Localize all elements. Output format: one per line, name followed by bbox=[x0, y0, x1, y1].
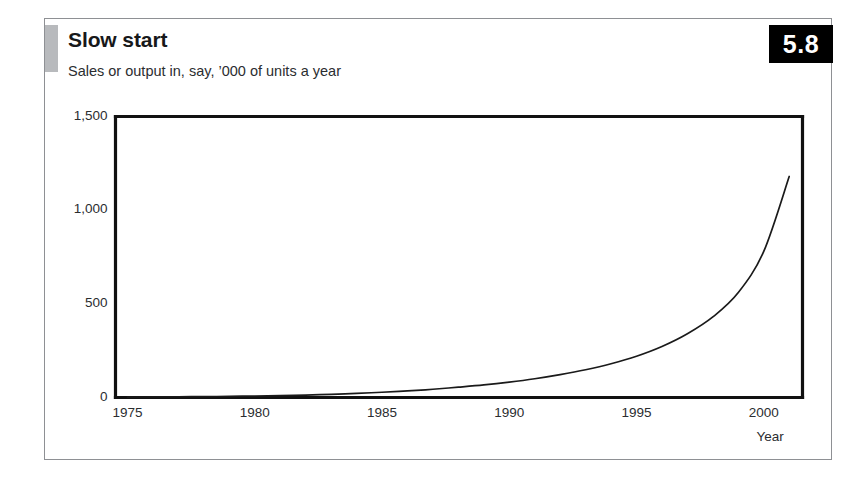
x-tick-label: 1995 bbox=[607, 405, 667, 420]
y-tick-label: 500 bbox=[85, 295, 108, 310]
figure-number-label: 5.8 bbox=[783, 30, 819, 59]
x-axis-title: Year bbox=[757, 429, 784, 444]
x-tick-label: 1990 bbox=[479, 405, 539, 420]
chart-subtitle: Sales or output in, say, ’000 of units a… bbox=[68, 63, 341, 79]
figure-number-badge: 5.8 bbox=[769, 25, 833, 63]
x-tick-label: 1985 bbox=[352, 405, 412, 420]
figure-card bbox=[44, 18, 832, 460]
y-tick-label: 0 bbox=[100, 389, 108, 404]
y-tick-label: 1,500 bbox=[74, 108, 108, 123]
x-tick-label: 1980 bbox=[225, 405, 285, 420]
x-tick-label: 1975 bbox=[98, 405, 158, 420]
figure-root: 5.8 Slow start Sales or output in, say, … bbox=[0, 0, 867, 489]
chart-title: Slow start bbox=[68, 28, 167, 52]
title-accent-bar bbox=[45, 25, 58, 72]
y-tick-label: 1,000 bbox=[74, 201, 108, 216]
x-tick-label: 2000 bbox=[734, 405, 794, 420]
